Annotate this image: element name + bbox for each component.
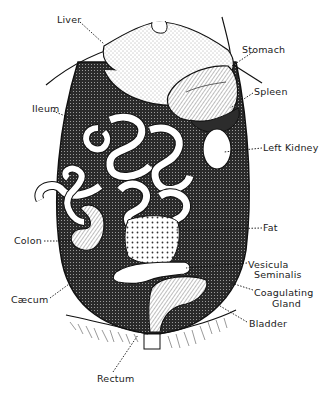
label-stomach: Stomach	[242, 44, 285, 55]
label-colon: Colon	[14, 235, 42, 246]
abdomen-illustration	[0, 0, 326, 393]
label-bladder: Bladder	[249, 318, 287, 329]
label-fat: Fat	[263, 222, 278, 233]
fat	[125, 216, 179, 264]
label-liver: Liver	[57, 14, 81, 25]
anatomy-diagram: Liver Stomach Ileum Spleen Left Kidney F…	[0, 0, 326, 393]
label-coagulating-2: Gland	[272, 298, 301, 309]
label-left-kidney: Left Kidney	[263, 142, 318, 153]
rectum	[144, 334, 160, 349]
label-rectum: Rectum	[97, 373, 134, 384]
left-kidney	[203, 129, 231, 169]
label-caecum: Cæcum	[11, 294, 48, 305]
label-spleen: Spleen	[254, 86, 288, 97]
label-vesicula-2: Seminalis	[254, 269, 302, 280]
label-coagulating-1: Coagulating	[254, 287, 313, 298]
label-ileum: Ileum	[32, 103, 60, 114]
